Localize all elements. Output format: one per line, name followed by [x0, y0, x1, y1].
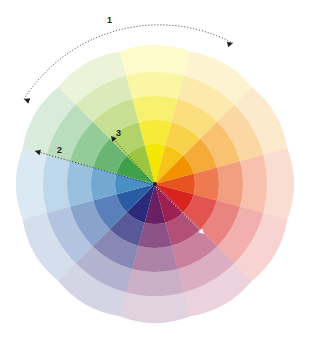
annotation-label-1: 1 [107, 16, 112, 25]
wheel-sector [126, 72, 184, 99]
wheel-sector [240, 155, 267, 213]
arrowhead-icon [24, 98, 30, 103]
color-wheel-canvas [0, 0, 310, 341]
arrowhead-icon [227, 42, 233, 48]
annotation-label-2: 2 [57, 146, 62, 155]
wheel-sector [217, 161, 243, 207]
wheel-sector [120, 45, 191, 76]
wheel-sector [126, 269, 184, 296]
wheel-center-dot [153, 182, 157, 186]
wheel-sector [43, 155, 70, 213]
color-wheel-figure: 1 2 3 [0, 0, 310, 341]
wheel-sector [67, 161, 93, 207]
wheel-sector [263, 149, 294, 220]
wheel-sector [132, 96, 178, 122]
wheel-sector [120, 292, 191, 323]
wheel-sector [16, 149, 47, 220]
wheel-sector [132, 246, 178, 272]
annotation-label-3: 3 [116, 129, 121, 138]
